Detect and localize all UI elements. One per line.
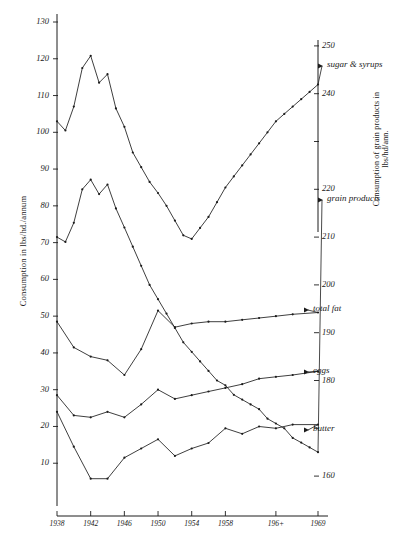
chart-canvas: Consumption in lbs/hd./annum Consumption… [0, 0, 408, 538]
plot-area [0, 0, 408, 538]
